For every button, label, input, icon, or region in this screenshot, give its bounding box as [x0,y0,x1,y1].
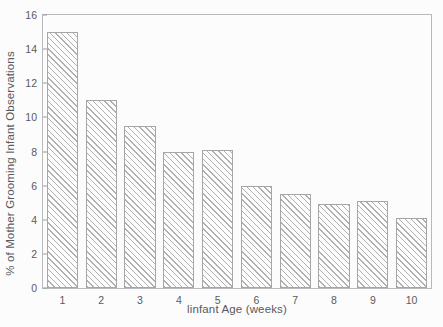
bar [396,218,427,288]
y-tick-label: 14 [25,44,43,55]
bar [357,201,388,288]
y-tick-label: 16 [25,10,43,21]
bar [124,126,155,288]
y-tick-label: 2 [31,249,43,260]
y-tick-label: 8 [31,146,43,157]
bar [202,150,233,288]
y-tick-mark [43,15,47,16]
y-tick-label: 6 [31,180,43,191]
bar [280,194,311,288]
plot-area: 0246810121416 12345678910 [42,14,432,289]
y-tick-label: 4 [31,215,43,226]
y-tick-label: 12 [25,78,43,89]
bar [47,32,78,288]
bar [163,152,194,289]
y-tick-label: 10 [25,112,43,123]
bar [86,100,117,288]
bar [241,186,272,288]
y-tick-label: 0 [31,283,43,294]
bar [318,204,349,288]
x-axis-label: linfant Age (weeks) [42,303,432,315]
bar-chart-figure: % of Mother Grooming Infant Observations… [0,0,443,327]
y-axis-label: % of Mother Grooming Infant Observations [0,0,20,327]
